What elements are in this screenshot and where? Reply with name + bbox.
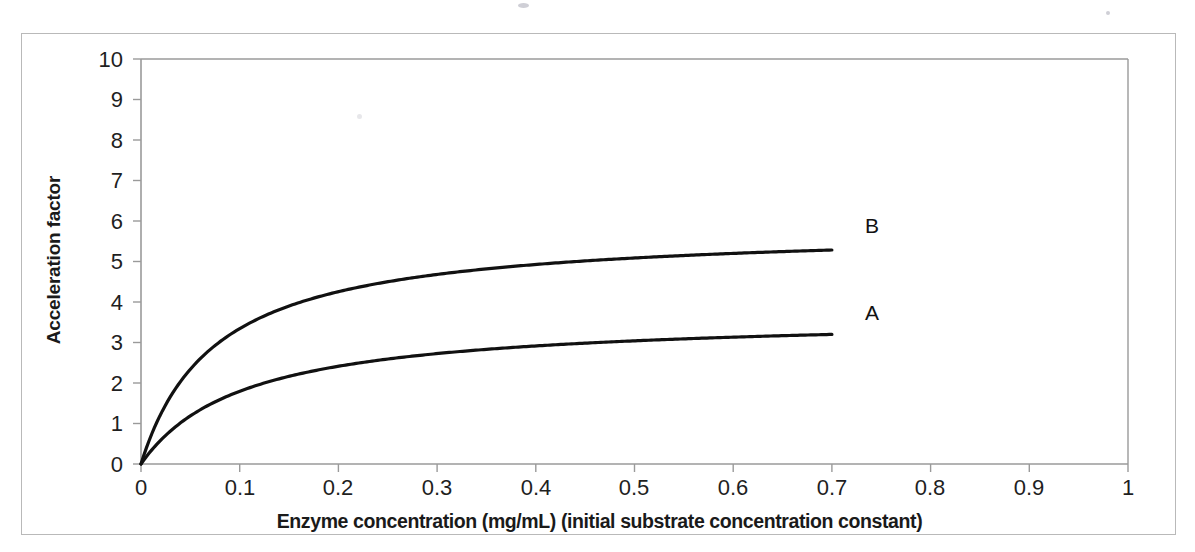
axis-lines <box>141 59 1128 464</box>
data-curve-b <box>141 250 832 464</box>
plot-area <box>22 34 1177 536</box>
figure-frame: Acceleration factor Enzyme concentration… <box>21 33 1176 535</box>
data-curve-a <box>141 334 832 464</box>
series-label-a: A <box>865 302 879 323</box>
series-label-b: B <box>865 215 879 236</box>
scan-speck <box>518 3 529 8</box>
scan-speck <box>1106 11 1110 15</box>
axis-ticks <box>133 59 1128 472</box>
